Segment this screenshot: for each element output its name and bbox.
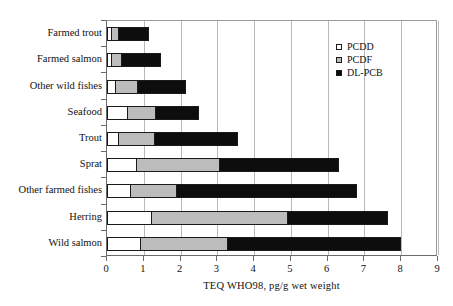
legend-item-pcdd: PCDD bbox=[336, 40, 383, 53]
bar-segment-pcdf bbox=[140, 237, 226, 251]
y-axis-category-label: Farmed salmon bbox=[2, 53, 102, 65]
bar-segment-dl-pcb bbox=[154, 132, 237, 146]
y-axis-category-label: Other farmed fishes bbox=[2, 184, 102, 196]
y-axis-category-label: Wild salmon bbox=[2, 237, 102, 249]
bar-segment-pcdd bbox=[107, 132, 118, 146]
x-axis-title: TEQ WHO98, pg/g wet weight bbox=[106, 280, 437, 291]
bar-segment-pcdd bbox=[107, 106, 127, 120]
y-axis-category-label: Sprat bbox=[2, 158, 102, 170]
y-axis-tick bbox=[101, 20, 106, 21]
bar-row bbox=[107, 80, 186, 94]
x-axis-tick bbox=[253, 256, 254, 261]
legend-swatch-dlpcb bbox=[336, 70, 342, 76]
x-axis-tick-label: 3 bbox=[204, 262, 228, 275]
bar-row bbox=[107, 158, 339, 172]
bar-segment-dl-pcb bbox=[155, 106, 199, 120]
bar-row bbox=[107, 132, 238, 146]
bar-segment-dl-pcb bbox=[219, 158, 339, 172]
bar-segment-pcdf bbox=[118, 132, 154, 146]
bar-segment-pcdd bbox=[107, 158, 136, 172]
y-axis-tick bbox=[101, 72, 106, 73]
bar-segment-dl-pcb bbox=[176, 184, 357, 198]
gridline bbox=[401, 21, 402, 255]
bar-segment-pcdd bbox=[107, 80, 115, 94]
bar-row bbox=[107, 184, 357, 198]
bar-segment-pcdf bbox=[111, 27, 118, 41]
y-axis-tick bbox=[101, 99, 106, 100]
x-axis-tick bbox=[106, 256, 107, 261]
x-axis-tick bbox=[327, 256, 328, 261]
bar-segment-pcdd bbox=[107, 211, 151, 225]
bar-segment-dl-pcb bbox=[227, 237, 402, 251]
y-axis-tick bbox=[101, 46, 106, 47]
y-axis-labels: Farmed troutFarmed salmonOther wild fish… bbox=[0, 20, 102, 256]
bar-row bbox=[107, 27, 149, 41]
bar-segment-pcdf bbox=[151, 211, 287, 225]
legend-item-pcdf: PCDF bbox=[336, 53, 383, 66]
y-axis-tick bbox=[101, 151, 106, 152]
legend-swatch-pcdf bbox=[336, 57, 342, 63]
x-axis-tick bbox=[400, 256, 401, 261]
bar-segment-pcdd bbox=[107, 184, 130, 198]
bar-segment-dl-pcb bbox=[121, 53, 162, 67]
x-axis-tick bbox=[216, 256, 217, 261]
legend-label-dlpcb: DL-PCB bbox=[347, 66, 383, 79]
bar-chart: Farmed troutFarmed salmonOther wild fish… bbox=[0, 0, 453, 306]
x-axis-tick-label: 2 bbox=[168, 262, 192, 275]
bar-segment-pcdf bbox=[136, 158, 219, 172]
bar-segment-dl-pcb bbox=[118, 27, 149, 41]
bar-segment-dl-pcb bbox=[137, 80, 186, 94]
bar-segment-pcdd bbox=[107, 237, 140, 251]
legend-label-pcdd: PCDD bbox=[347, 40, 374, 53]
y-axis-category-label: Other wild fishes bbox=[2, 80, 102, 92]
x-axis-tick-label: 8 bbox=[388, 262, 412, 275]
y-axis-tick bbox=[101, 230, 106, 231]
bar-segment-dl-pcb bbox=[287, 211, 388, 225]
y-axis-tick bbox=[101, 256, 106, 257]
y-axis-tick bbox=[101, 125, 106, 126]
x-axis-tick-label: 5 bbox=[278, 262, 302, 275]
legend-label-pcdf: PCDF bbox=[347, 53, 372, 66]
x-axis-tick bbox=[143, 256, 144, 261]
bar-segment-pcdf bbox=[115, 80, 137, 94]
x-axis-tick-label: 4 bbox=[241, 262, 265, 275]
bar-row bbox=[107, 106, 199, 120]
y-axis-category-label: Herring bbox=[2, 211, 102, 223]
y-axis-category-label: Farmed trout bbox=[2, 27, 102, 39]
legend-swatch-pcdd bbox=[336, 44, 342, 50]
bar-segment-pcdf bbox=[130, 184, 176, 198]
x-axis-tick-label: 7 bbox=[351, 262, 375, 275]
bar-segment-pcdf bbox=[111, 53, 121, 67]
x-axis-tick bbox=[180, 256, 181, 261]
x-axis-tick bbox=[437, 256, 438, 261]
x-axis-tick-label: 6 bbox=[315, 262, 339, 275]
x-axis-tick-label: 1 bbox=[131, 262, 155, 275]
x-axis-tick-label: 0 bbox=[94, 262, 118, 275]
plot-area bbox=[106, 20, 437, 256]
bar-row bbox=[107, 211, 388, 225]
y-axis-tick bbox=[101, 204, 106, 205]
y-axis-category-label: Seafood bbox=[2, 106, 102, 118]
legend-item-dlpcb: DL-PCB bbox=[336, 66, 383, 79]
y-axis-tick bbox=[101, 177, 106, 178]
x-axis-tick bbox=[363, 256, 364, 261]
y-axis-category-label: Trout bbox=[2, 132, 102, 144]
bar-row bbox=[107, 53, 161, 67]
gridline bbox=[438, 21, 439, 255]
x-axis-tick-label: 9 bbox=[425, 262, 449, 275]
chart-legend: PCDD PCDF DL-PCB bbox=[336, 40, 383, 79]
bar-row bbox=[107, 237, 401, 251]
bar-segment-pcdf bbox=[127, 106, 155, 120]
x-axis-tick bbox=[290, 256, 291, 261]
